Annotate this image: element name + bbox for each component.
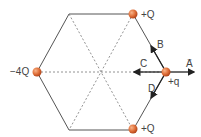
vector-c-label: → C bbox=[140, 59, 147, 69]
vector-arrow-icon: → bbox=[148, 79, 155, 89]
hexagon-diagram bbox=[0, 0, 201, 137]
label-bottom-right: +Q bbox=[141, 124, 155, 134]
label-right: +q bbox=[168, 77, 179, 87]
charge-left bbox=[33, 68, 42, 77]
charge-top-right bbox=[129, 10, 138, 19]
vector-arrow-icon: → bbox=[186, 54, 193, 64]
vector-arrow-icon: → bbox=[157, 35, 164, 45]
vector-a-label: → A bbox=[186, 59, 193, 69]
charge-bottom-right bbox=[129, 125, 138, 134]
vector-d-label: → D bbox=[148, 84, 155, 94]
label-left: −4Q bbox=[10, 67, 29, 77]
label-top-right: +Q bbox=[141, 10, 155, 20]
vector-arrow-icon: → bbox=[140, 54, 147, 64]
vector-b-label: → B bbox=[157, 40, 164, 50]
